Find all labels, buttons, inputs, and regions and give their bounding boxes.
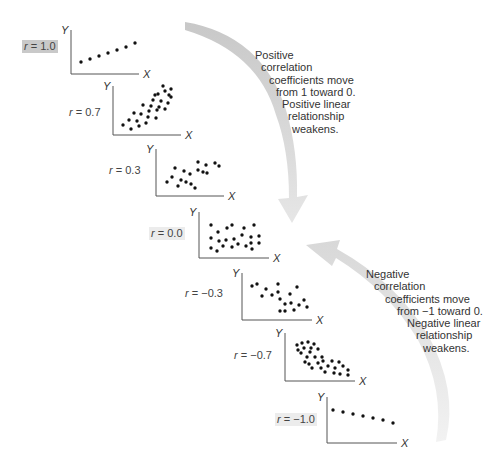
data-point: [209, 223, 212, 226]
data-point: [159, 99, 162, 102]
data-point: [167, 93, 170, 96]
data-point: [217, 164, 220, 167]
data-point: [230, 245, 233, 248]
data-point: [188, 172, 191, 175]
positive-correlation-note: Positive correlation coefficients move f…: [255, 49, 355, 135]
data-point: [320, 355, 323, 358]
data-point: [106, 51, 109, 54]
data-point: [244, 244, 247, 247]
scatter-panel-r-0-3: Y X: [146, 143, 236, 202]
data-point: [310, 366, 313, 369]
data-point: [264, 287, 267, 290]
data-point: [391, 421, 394, 424]
data-point: [332, 371, 335, 374]
data-point: [257, 234, 260, 237]
data-point: [330, 359, 333, 362]
data-point: [230, 223, 233, 226]
data-point: [141, 103, 144, 106]
data-point: [161, 84, 164, 87]
data-point: [132, 111, 135, 114]
r-label-1-0: r = 1.0: [22, 40, 58, 53]
data-point: [155, 108, 158, 111]
data-point: [179, 178, 182, 181]
y-axis-label: Y: [275, 327, 283, 339]
data-point: [295, 285, 298, 288]
data-point: [163, 107, 166, 110]
y-axis-label: Y: [232, 267, 240, 279]
data-point: [346, 373, 349, 376]
x-axis-label: X: [184, 129, 193, 141]
data-points: [165, 160, 220, 189]
data-point: [326, 364, 329, 367]
data-point: [249, 235, 252, 238]
data-point: [309, 346, 312, 349]
data-point: [144, 121, 147, 124]
correlation-diagram: Y X Y X Y X Y X Y X Y X Y X: [0, 0, 499, 467]
r-label-0-0: r = 0.0: [149, 227, 185, 240]
data-point: [278, 297, 281, 300]
data-point: [224, 238, 227, 241]
data-point: [156, 92, 159, 95]
data-point: [153, 93, 156, 96]
data-point: [149, 104, 152, 107]
r-label-neg-1-0: r = −1.0: [275, 413, 317, 426]
data-point: [292, 308, 295, 311]
data-point: [139, 112, 142, 115]
data-point: [165, 180, 168, 183]
data-point: [176, 184, 179, 187]
y-axis-label: Y: [317, 391, 325, 403]
x-axis-label: X: [315, 314, 324, 326]
data-point: [252, 223, 255, 226]
scatter-panel-r-1-0: Y X: [61, 24, 151, 80]
r-label-neg-0-3: r = −0.3: [183, 287, 225, 300]
data-point: [135, 119, 138, 122]
data-point: [341, 364, 344, 367]
data-point: [129, 127, 132, 130]
data-point: [121, 123, 124, 126]
data-point: [216, 230, 219, 233]
scatter-panel-r-neg-0-3: Y X: [232, 267, 324, 326]
y-axis-label: Y: [61, 24, 69, 36]
data-point: [146, 115, 149, 118]
scatter-panel-r-neg-0-7: Y X: [275, 327, 367, 387]
data-point: [249, 241, 252, 244]
r-label-neg-0-7: r = −0.7: [232, 349, 274, 362]
negative-correlation-note: Negative correlation coefficients move f…: [366, 268, 483, 354]
data-points: [121, 84, 172, 130]
x-axis-label: X: [227, 190, 236, 202]
data-point: [79, 60, 82, 63]
data-point: [333, 366, 336, 369]
data-point: [276, 282, 279, 285]
data-point: [97, 54, 100, 57]
data-point: [312, 342, 315, 345]
data-point: [133, 41, 136, 44]
scatter-panel-r-0-7: Y X: [103, 80, 193, 141]
data-point: [173, 166, 176, 169]
data-point: [225, 226, 228, 229]
data-points: [331, 408, 394, 424]
data-point: [331, 408, 334, 411]
data-point: [221, 244, 224, 247]
data-point: [306, 340, 309, 343]
data-point: [270, 293, 273, 296]
data-point: [283, 302, 286, 305]
r-label-0-3: r = 0.3: [107, 164, 143, 177]
x-axis-label: X: [358, 375, 367, 387]
data-point: [316, 361, 319, 364]
data-point: [260, 294, 263, 297]
data-point: [115, 48, 118, 51]
data-point: [124, 45, 127, 48]
data-point: [323, 370, 326, 373]
data-point: [189, 182, 192, 185]
data-point: [321, 359, 324, 362]
data-point: [346, 368, 349, 371]
data-point: [361, 414, 364, 417]
data-point: [157, 105, 160, 108]
data-point: [289, 301, 292, 304]
data-point: [147, 109, 150, 112]
data-point: [217, 239, 220, 242]
data-point: [201, 170, 204, 173]
data-point: [193, 186, 196, 189]
r-label-0-7: r = 0.7: [67, 106, 103, 119]
data-point: [154, 116, 157, 119]
